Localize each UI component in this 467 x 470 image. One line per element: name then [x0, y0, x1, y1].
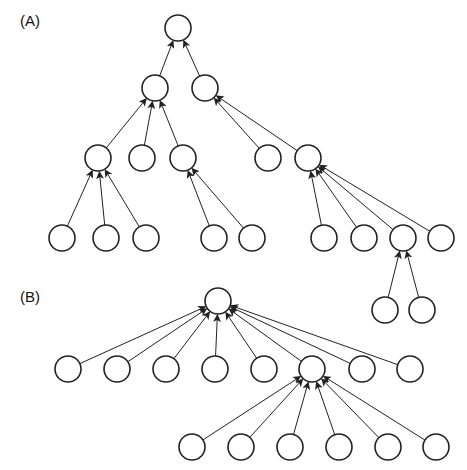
- tree-node-b14: [423, 434, 449, 460]
- panel-label-b: (B): [20, 288, 40, 305]
- edge-arrow: [311, 172, 322, 226]
- tree-node-b6: [299, 356, 325, 382]
- edge-arrow: [226, 313, 257, 359]
- edge-arrow: [324, 376, 425, 440]
- edge-arrow: [319, 167, 393, 230]
- edge-arrow: [407, 252, 419, 298]
- tree-node-a7: [295, 145, 321, 171]
- tree-node-a10: [133, 225, 159, 251]
- tree-node-b9: [179, 434, 205, 460]
- edge-arrow: [144, 102, 152, 145]
- tree-node-b5: [251, 356, 277, 382]
- panel-label-a: (A): [20, 12, 40, 29]
- edge-arrow: [128, 309, 207, 362]
- tree-node-a18: [409, 297, 435, 323]
- edge-arrow: [192, 169, 243, 229]
- edge-arrow: [217, 96, 298, 151]
- tree-node-a0: [165, 15, 191, 41]
- tree-node-b7: [349, 356, 375, 382]
- tree-node-b3: [153, 356, 179, 382]
- tree-node-b12: [326, 434, 352, 460]
- edge-arrow: [322, 379, 379, 438]
- edge-arrow: [188, 171, 209, 226]
- edge-arrow: [214, 98, 259, 148]
- edge-arrow: [184, 41, 200, 76]
- tree-node-b8: [397, 356, 423, 382]
- tree-node-a14: [351, 225, 377, 251]
- tree-node-a15: [390, 225, 416, 251]
- nodes: [49, 15, 454, 460]
- tree-node-a4: [129, 145, 155, 171]
- tree-node-a5: [170, 145, 196, 171]
- tree-node-b11: [277, 434, 303, 460]
- tree-node-a9: [93, 225, 119, 251]
- tree-node-a17: [372, 297, 398, 323]
- edge-arrow: [80, 307, 205, 364]
- edge-arrow: [160, 101, 178, 146]
- tree-node-a12: [239, 225, 265, 251]
- tree-node-b0: [205, 288, 231, 314]
- tree-node-a8: [49, 225, 75, 251]
- tree-node-b4: [202, 356, 228, 382]
- tree-node-b2: [104, 356, 130, 382]
- edge-arrow: [105, 170, 139, 227]
- edge-arrow: [216, 315, 218, 356]
- tree-node-b13: [375, 434, 401, 460]
- tree-node-a11: [201, 225, 227, 251]
- edge-arrow: [160, 41, 173, 76]
- tree-node-a3: [85, 145, 111, 171]
- tree-node-a1: [142, 75, 168, 101]
- tree-node-a2: [192, 75, 218, 101]
- tree-node-b10: [228, 434, 254, 460]
- tree-node-a16: [428, 225, 454, 251]
- edge-arrow: [67, 171, 92, 226]
- edge-arrow: [388, 252, 399, 298]
- edge-arrow: [99, 172, 104, 225]
- edge-arrow: [294, 382, 309, 434]
- edge-arrow: [231, 307, 351, 363]
- tree-canvas: [0, 0, 467, 470]
- tree-node-a13: [311, 225, 337, 251]
- edge-arrow: [106, 99, 146, 148]
- tree-node-b1: [55, 356, 81, 382]
- tree-diagram: (A) (B): [0, 0, 467, 470]
- edge-arrow: [203, 377, 300, 440]
- edge-arrow: [316, 169, 357, 227]
- tree-node-a6: [255, 145, 281, 171]
